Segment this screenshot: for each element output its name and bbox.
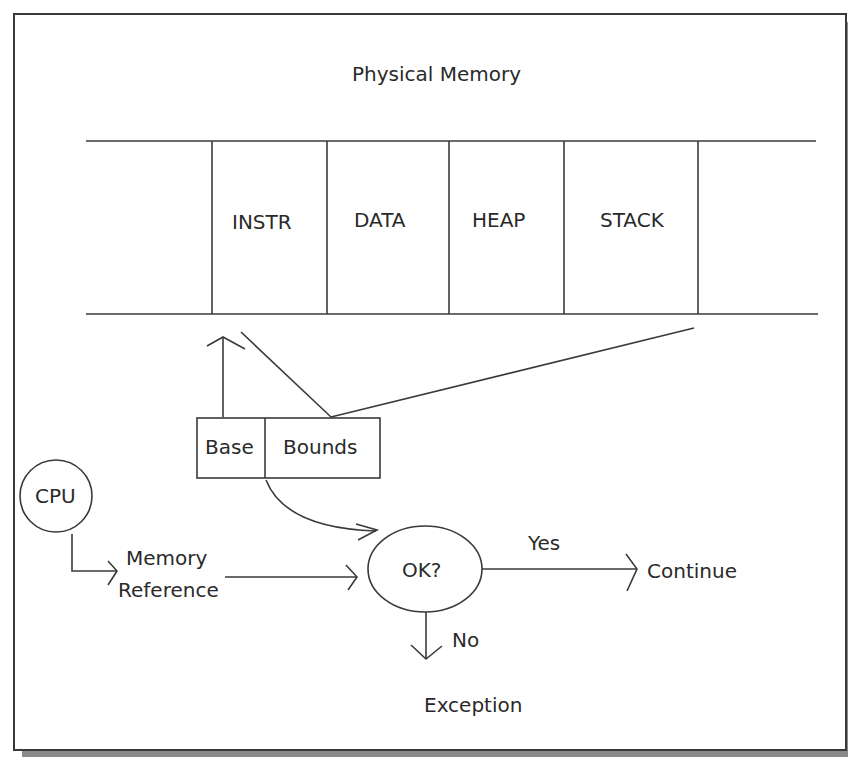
diagram-canvas — [0, 0, 853, 765]
yes-label: Yes — [528, 533, 560, 553]
segment-instr: INSTR — [232, 212, 292, 232]
check-label: OK? — [402, 560, 441, 580]
memory-reference-line2: Reference — [118, 580, 219, 600]
no-label: No — [452, 630, 479, 650]
bounds-register: Bounds — [283, 437, 357, 457]
frame — [14, 14, 846, 750]
segment-data: DATA — [354, 210, 406, 230]
exception-label: Exception — [424, 695, 522, 715]
continue-label: Continue — [647, 561, 737, 581]
memory-reference-line1: Memory — [126, 548, 207, 568]
cpu-label: CPU — [35, 486, 76, 506]
segment-heap: HEAP — [472, 210, 525, 230]
memory-title: Physical Memory — [352, 64, 521, 84]
segment-stack: STACK — [600, 210, 664, 230]
base-register: Base — [205, 437, 254, 457]
